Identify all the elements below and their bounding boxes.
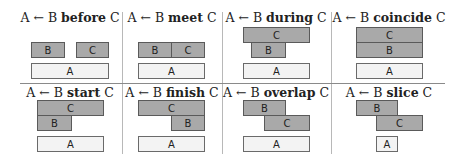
result-a: A — [376, 136, 398, 152]
interval-c: C — [376, 115, 423, 131]
interval-relations-diagram: A ← B before C B C A A ← B meet C B C A … — [0, 0, 465, 163]
result-a: A — [243, 136, 310, 152]
cell-title-before: A ← B before C — [20, 11, 119, 25]
interval-b: B — [251, 42, 286, 58]
result-a: A — [138, 63, 205, 79]
interval-b: B — [243, 100, 286, 116]
interval-c: C — [264, 115, 310, 131]
interval-b: B — [356, 42, 423, 58]
result-a: A — [37, 136, 104, 152]
interval-b: B — [171, 115, 205, 131]
interval-c: C — [356, 27, 423, 43]
interval-c: C — [171, 42, 205, 58]
result-a: A — [31, 63, 109, 79]
cell-title-meet: A ← B meet C — [127, 11, 216, 25]
interval-b: B — [356, 100, 398, 116]
interval-c: C — [243, 27, 310, 43]
interval-b: B — [138, 42, 172, 58]
row-divider — [20, 83, 445, 84]
cell-title-during: A ← B during C — [225, 11, 326, 25]
result-a: A — [138, 136, 205, 152]
cell-title-coincide: A ← B coincide C — [332, 11, 445, 25]
cell-title-start: A ← B start C — [26, 86, 114, 100]
interval-b: B — [37, 115, 72, 131]
cell-title-finish: A ← B finish C — [125, 86, 218, 100]
interval-c: C — [37, 100, 104, 116]
result-a: A — [243, 63, 310, 79]
cell-title-overlap: A ← B overlap C — [223, 86, 329, 100]
interval-c: C — [76, 42, 109, 58]
cell-title-slice: A ← B slice C — [346, 86, 432, 100]
interval-b: B — [31, 42, 65, 58]
interval-c: C — [138, 100, 205, 116]
result-a: A — [356, 63, 423, 79]
